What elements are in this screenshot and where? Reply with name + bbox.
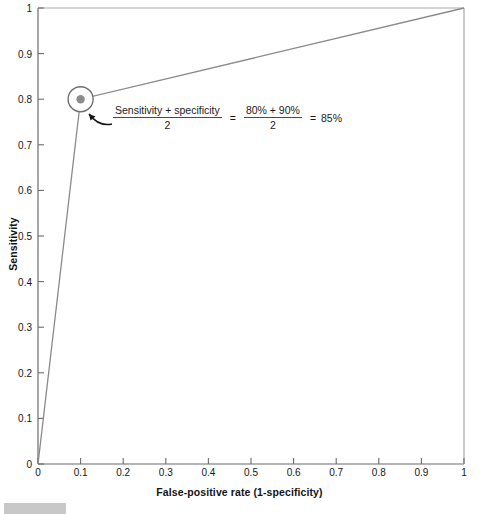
- figure-caption-stub: [4, 503, 66, 514]
- ytick-label-10: 1: [2, 3, 32, 14]
- x-axis-title: False-positive rate (1-specificity): [0, 486, 479, 498]
- ytick-label-2: 0.2: [2, 367, 32, 378]
- y-axis-ticks: [38, 8, 44, 464]
- ytick-label-3: 0.3: [2, 322, 32, 333]
- xtick-label-9: 0.9: [414, 467, 428, 478]
- xtick-label-6: 0.6: [287, 467, 301, 478]
- formula-fraction-1-denominator: 2: [162, 118, 172, 131]
- xtick-label-2: 0.2: [116, 467, 130, 478]
- accuracy-formula-annotation: Sensitivity + specificity 2 = 80% + 90% …: [110, 104, 342, 131]
- roc-plot-canvas: [0, 0, 479, 514]
- formula-fraction-2-numerator: 80% + 90%: [244, 104, 302, 117]
- ytick-label-8: 0.8: [2, 94, 32, 105]
- ytick-label-0: 0: [2, 459, 32, 470]
- xtick-label-10: 1: [461, 467, 467, 478]
- ytick-label-6: 0.6: [2, 185, 32, 196]
- formula-fraction-2-denominator: 2: [268, 118, 278, 131]
- xtick-label-1: 0.1: [74, 467, 88, 478]
- formula-fraction-2: 80% + 90% 2: [244, 104, 302, 131]
- y-axis-title: Sensitivity: [7, 199, 19, 289]
- xtick-label-5: 0.5: [244, 467, 258, 478]
- plot-frame: [38, 8, 464, 464]
- ytick-label-7: 0.7: [2, 139, 32, 150]
- formula-fraction-1-numerator: Sensitivity + specificity: [113, 104, 222, 117]
- formula-fraction-1: Sensitivity + specificity 2: [113, 104, 222, 131]
- optimal-cutpoint-marker: [68, 87, 93, 112]
- annotation-arrow-icon: [89, 114, 112, 125]
- formula-equals-1: =: [230, 111, 236, 124]
- xtick-label-7: 0.7: [329, 467, 343, 478]
- ytick-label-9: 0.9: [2, 48, 32, 59]
- formula-equals-2: =: [310, 111, 316, 124]
- roc-curve-line: [38, 8, 464, 464]
- xtick-label-0: 0: [35, 467, 41, 478]
- xtick-label-3: 0.3: [159, 467, 173, 478]
- x-axis-ticks: [38, 458, 464, 464]
- formula-result: 85%: [321, 111, 342, 124]
- ytick-label-1: 0.1: [2, 413, 32, 424]
- xtick-label-4: 0.4: [201, 467, 215, 478]
- roc-chart-figure: 0 0.1 0.2 0.3 0.4 0.5 0.6 0.7 0.8 0.9 1 …: [0, 0, 479, 514]
- xtick-label-8: 0.8: [372, 467, 386, 478]
